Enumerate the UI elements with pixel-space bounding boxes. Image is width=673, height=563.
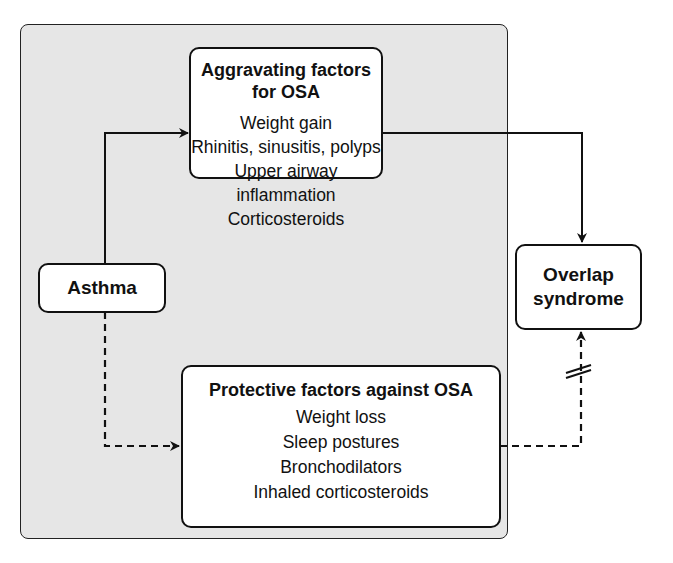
aggravating-item: Rhinitis, sinusitis, polyps [191,135,381,159]
protective-factors-box: Protective factors against OSA Weight lo… [181,365,501,528]
aggravating-item: Corticosteroids [191,207,381,231]
protective-item: Weight loss [183,405,499,430]
aggravating-factors-title: Aggravating factors for OSA [191,59,381,103]
overlap-syndrome-box: Overlap syndrome [515,244,642,330]
arrow-aggravating-to-overlap [382,133,582,242]
aggravating-factors-box: Aggravating factors for OSA Weight gain … [189,47,383,179]
protective-item: Bronchodilators [183,455,499,480]
aggravating-item: Upper airway inflammation [191,159,381,207]
aggravating-item: Weight gain [191,111,381,135]
asthma-label: Asthma [67,277,137,299]
protective-item: Sleep postures [183,430,499,455]
overlap-label-line1: Overlap [543,263,614,287]
blocked-mark-icon [566,365,591,378]
arrow-protective-to-overlap [500,332,581,446]
asthma-box: Asthma [38,263,166,313]
protective-item: Inhaled corticosteroids [183,480,499,505]
arrow-asthma-to-aggravating [105,133,188,263]
arrow-asthma-to-protective [105,312,179,446]
protective-factors-title: Protective factors against OSA [183,379,499,401]
overlap-label-line2: syndrome [533,287,624,311]
